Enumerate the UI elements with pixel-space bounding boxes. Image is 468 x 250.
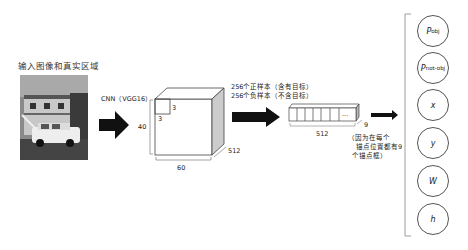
vector-length-bracket [290, 123, 355, 126]
anchor-note-line3: 个锚点框） [352, 153, 387, 160]
anchor-note-line2: 锚点位置都有9 [356, 144, 402, 151]
kernel-width-label: 3 [172, 105, 176, 112]
cnn-label: CNN（VGG16） [101, 96, 152, 103]
vector-ellipsis: ... [342, 111, 348, 118]
diagram-lines [0, 0, 468, 250]
width-label: 60 [177, 165, 185, 172]
height-label: 40 [138, 124, 146, 131]
width-bracket [156, 157, 211, 160]
feature-map-cube [155, 88, 224, 155]
positive-samples-label: 256个正样本（含有目标） [231, 84, 313, 91]
output-p-not-obj: Pnot-obj [417, 52, 449, 84]
height-bracket [150, 100, 153, 154]
output-y: y [417, 127, 449, 159]
output-h: h [417, 203, 449, 235]
output-arrow [371, 110, 398, 120]
output-x: x [417, 89, 449, 121]
vector-box [289, 104, 359, 121]
anchor-note-line1: （因为在每个 [348, 135, 390, 142]
vector-count-label: 9 [364, 122, 368, 129]
vector-length-label: 512 [316, 131, 328, 138]
kernel-height-label: 3 [158, 116, 162, 123]
negative-samples-label: 256个负样本（不含目标） [231, 93, 313, 100]
output-w: W [417, 165, 449, 197]
output-p-obj: Pobj [417, 15, 449, 47]
cnn-arrow [99, 111, 129, 139]
output-bracket [405, 14, 411, 236]
vector-count-bracket [357, 120, 362, 124]
sample-arrow [232, 107, 280, 127]
depth-label: 512 [228, 148, 240, 155]
